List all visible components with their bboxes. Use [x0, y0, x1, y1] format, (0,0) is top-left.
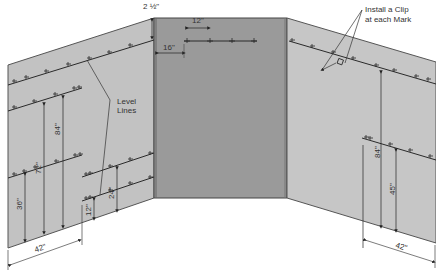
right-wall-panel [287, 18, 436, 243]
dim-24: 24" [107, 187, 116, 199]
dim-84: 84" [53, 123, 62, 135]
dim-16-spacing: 16" [163, 43, 175, 52]
left-wall-panel [8, 18, 154, 248]
dim-12: 12" [84, 204, 93, 216]
level-lines-label-2: Lines [117, 106, 136, 115]
install-clip-label-1: Install a Clip [365, 5, 409, 14]
right-dim-84: 84" [373, 146, 382, 158]
right-dim-42: 42" [394, 241, 408, 253]
right-dim-45: 45" [388, 183, 397, 195]
level-lines-label-1: Level [117, 97, 136, 106]
wall-layout-diagram: Level Lines 36" 72" 84" 12" 24" 42" 2 ½"… [0, 0, 436, 271]
install-clip-label-2: at each Mark [365, 15, 412, 24]
dim-36: 36" [15, 198, 24, 210]
dim-72: 72" [34, 162, 43, 174]
dim-2-half: 2 ½" [143, 2, 159, 11]
dim-12-spacing: 12" [192, 16, 204, 25]
